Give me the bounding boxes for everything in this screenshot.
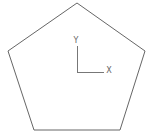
- coordinate-axes-icon: Y X: [73, 36, 113, 75]
- y-axis-label: Y: [73, 36, 79, 45]
- diagram-canvas: Y X: [0, 0, 152, 140]
- pentagon-shape: [8, 3, 145, 130]
- x-axis-label: X: [106, 66, 112, 75]
